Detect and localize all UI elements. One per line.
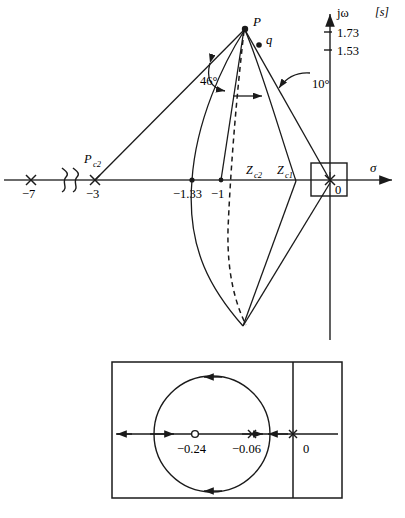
figure-root: σ jω [s] 1.73 1.53 −7 −3 P c2 [0, 0, 405, 518]
angle-label-10: 10° [312, 77, 330, 91]
plane-label: [s] [375, 5, 389, 19]
locus-branch-origin-lower [243, 183, 330, 326]
angle-pointer-10 [279, 73, 310, 88]
angle-label-46: 46° [200, 74, 218, 88]
inset-zero-label: −0.24 [177, 442, 207, 456]
svg-text:P: P [83, 152, 92, 166]
main-plot: σ jω [s] 1.73 1.53 −7 −3 P c2 [4, 5, 392, 340]
angle-line-pc2-to-P [95, 29, 245, 180]
real-mark-label-neg3: −3 [86, 187, 99, 201]
inset-pole-label-neg006: −0.06 [232, 442, 261, 456]
label-zc2: Z c2 [246, 163, 263, 180]
real-mark-label-neg133: −1.33 [173, 187, 202, 201]
real-axis-label: σ [370, 160, 377, 175]
svg-text:c2: c2 [93, 159, 102, 169]
diagram-canvas: σ jω [s] 1.73 1.53 −7 −3 P c2 [0, 0, 405, 518]
point-q-marker [256, 42, 262, 48]
point-q-label: q [266, 33, 272, 47]
svg-text:Z: Z [277, 163, 284, 177]
inset-origin-label: 0 [303, 442, 309, 456]
line-P-to-origin [245, 30, 331, 182]
svg-text:c2: c2 [254, 170, 263, 180]
point-P-marker [242, 26, 248, 32]
point-P-label: P [252, 14, 261, 29]
imag-tick-label-2: 1.53 [337, 44, 359, 58]
inset-frame [112, 362, 342, 498]
label-pc2: P c2 [83, 152, 102, 169]
real-mark-label-neg7: −7 [22, 187, 35, 201]
locus-branch-left-lower [191, 180, 243, 326]
inset-plot: −0.24 −0.06 0 [112, 362, 342, 498]
real-mark-label-origin: 0 [335, 183, 341, 197]
svg-text:Z: Z [246, 163, 253, 177]
imag-axis-label: jω [336, 6, 349, 20]
real-mark-label-neg1: −1 [211, 187, 224, 201]
locus-branch-right-lower [243, 181, 296, 326]
svg-text:c1: c1 [285, 170, 293, 180]
inset-zero-marker [192, 431, 199, 438]
imag-tick-label-1: 1.73 [337, 26, 359, 40]
